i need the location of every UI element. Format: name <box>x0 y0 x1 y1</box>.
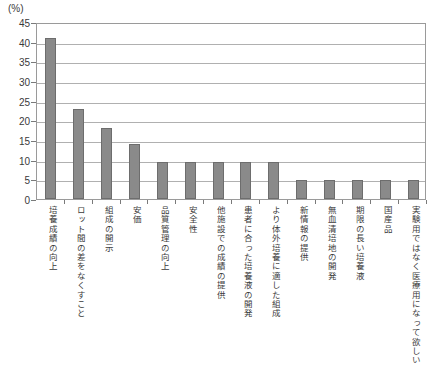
x-axis-tick-mark <box>92 200 93 204</box>
bar <box>324 180 335 199</box>
x-axis-category-label: 組成の開示 <box>99 206 112 253</box>
bar <box>268 162 279 199</box>
x-axis-category-label: 安価 <box>127 206 140 225</box>
x-axis-tick-marks <box>36 200 426 204</box>
x-axis-tick-mark <box>259 200 260 204</box>
x-axis-tick-mark <box>203 200 204 204</box>
bar <box>45 38 56 199</box>
x-axis-tick-mark <box>315 200 316 204</box>
gridline <box>37 142 425 143</box>
x-axis-tick-mark <box>370 200 371 204</box>
x-axis-category-labels: 培養成績の向上ロット間の差をなくすこと組成の開示安価品質管理の向上安全性他施設で… <box>36 206 426 324</box>
gridline <box>37 44 425 45</box>
y-axis-unit-label: (%) <box>8 3 24 14</box>
x-axis-tick-mark <box>398 200 399 204</box>
y-axis-tick-marks <box>0 23 36 200</box>
x-axis-category-label: 新情報の提供 <box>294 206 307 262</box>
x-axis-tick-mark <box>147 200 148 204</box>
x-axis-tick-mark <box>64 200 65 204</box>
bar <box>296 180 307 199</box>
x-axis-tick-mark <box>231 200 232 204</box>
x-axis-category-label: 他施設での成績の提供 <box>211 206 224 300</box>
gridline <box>37 103 425 104</box>
x-axis-category-label: 患者に合った培養液の開発 <box>238 206 251 319</box>
x-axis-tick-mark <box>175 200 176 204</box>
x-axis-tick-mark <box>287 200 288 204</box>
plot-area <box>36 23 426 200</box>
x-axis-category-label: 品質管理の向上 <box>155 206 168 272</box>
bar <box>129 144 140 199</box>
bar <box>213 162 224 199</box>
gridline <box>37 162 425 163</box>
bar <box>157 162 168 199</box>
bar <box>408 180 419 199</box>
bar <box>380 180 391 199</box>
x-axis-category-label: 安全性 <box>183 206 196 234</box>
x-axis-category-label: 培養成績の向上 <box>43 206 56 272</box>
x-axis-category-label: 実験用ではなく医療用になって欲しい <box>406 206 419 366</box>
x-axis-category-label: ロット間の差をなくすこと <box>71 206 84 319</box>
bar <box>352 180 363 199</box>
gridline <box>37 181 425 182</box>
bar <box>73 109 84 199</box>
bar <box>185 162 196 199</box>
gridline <box>37 63 425 64</box>
x-axis-tick-mark <box>426 200 427 204</box>
bar <box>240 162 251 199</box>
x-axis-category-label: 国産品 <box>378 206 391 234</box>
x-axis-category-label: より体外培養に適した組成 <box>266 206 279 319</box>
x-axis-category-label: 無血清培地の開発 <box>322 206 335 281</box>
gridline <box>37 122 425 123</box>
gridline <box>37 83 425 84</box>
x-axis-category-label: 期限の長い培養液 <box>350 206 363 281</box>
bar <box>101 128 112 199</box>
x-axis-tick-mark <box>342 200 343 204</box>
x-axis-tick-mark <box>120 200 121 204</box>
